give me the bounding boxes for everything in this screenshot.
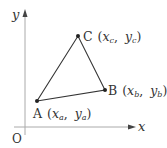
origin-label: O bbox=[12, 132, 22, 146]
x-axis-arrow-icon bbox=[128, 125, 136, 130]
triangle-abc bbox=[37, 36, 105, 101]
point-a-marker bbox=[35, 99, 39, 103]
point-b-marker bbox=[103, 88, 107, 92]
y-axis-arrow-icon bbox=[23, 9, 28, 17]
axes: y x O bbox=[11, 7, 146, 146]
point-c-label: C (xc, yc) bbox=[83, 29, 141, 45]
point-a-label: A (xa, ya) bbox=[32, 106, 91, 122]
x-axis-label: x bbox=[138, 119, 146, 134]
point-c-marker bbox=[76, 34, 80, 38]
y-axis-label: y bbox=[11, 7, 20, 22]
point-b-label: B (xb, yb) bbox=[108, 83, 167, 99]
coordinate-diagram: y x O C (xc, yc) B (xb, yb) A (xa, ya) bbox=[0, 0, 167, 148]
